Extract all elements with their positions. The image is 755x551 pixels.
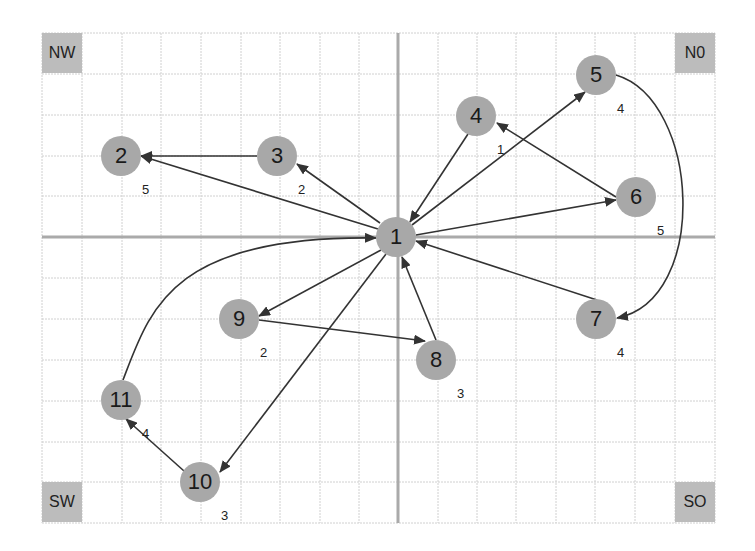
node-4[interactable]: 4 bbox=[456, 96, 496, 136]
grid-lines bbox=[42, 33, 715, 523]
node-8[interactable]: 8 bbox=[416, 340, 456, 380]
corner-label-so: SO bbox=[675, 482, 715, 522]
node-11[interactable]: 11 bbox=[101, 380, 141, 420]
corner-label-sw: SW bbox=[42, 482, 82, 522]
node-3[interactable]: 3 bbox=[257, 136, 297, 176]
node-weight-5: 4 bbox=[617, 101, 624, 116]
edges bbox=[123, 75, 683, 472]
node-10[interactable]: 10 bbox=[180, 462, 220, 502]
edge-1-to-10 bbox=[220, 254, 386, 472]
edge-9-to-8 bbox=[259, 320, 425, 341]
corner-label-no: N0 bbox=[675, 33, 715, 73]
node-weight-9: 2 bbox=[260, 345, 267, 360]
node-7[interactable]: 7 bbox=[576, 299, 616, 339]
graph-canvas bbox=[0, 0, 755, 551]
edge-10-to-11 bbox=[126, 419, 184, 471]
node-weight-10: 3 bbox=[221, 508, 228, 523]
edge-4-to-1 bbox=[410, 134, 468, 222]
edge-8-to-1 bbox=[402, 257, 436, 340]
node-9[interactable]: 9 bbox=[219, 299, 259, 339]
node-2[interactable]: 2 bbox=[101, 136, 141, 176]
edge-6-to-4 bbox=[497, 123, 616, 197]
node-weight-3: 2 bbox=[298, 182, 305, 197]
node-1[interactable]: 1 bbox=[376, 217, 416, 257]
node-weight-4: 1 bbox=[497, 142, 504, 157]
node-weight-8: 3 bbox=[457, 386, 464, 401]
corner-label-nw: NW bbox=[42, 33, 82, 73]
node-weight-6: 5 bbox=[657, 223, 664, 238]
node-weight-11: 4 bbox=[142, 426, 149, 441]
node-weight-7: 4 bbox=[617, 345, 624, 360]
edge-7-to-1 bbox=[416, 241, 597, 300]
edge-1-to-3 bbox=[297, 164, 380, 223]
node-6[interactable]: 6 bbox=[616, 177, 656, 217]
node-weight-2: 5 bbox=[142, 182, 149, 197]
node-5[interactable]: 5 bbox=[576, 55, 616, 95]
